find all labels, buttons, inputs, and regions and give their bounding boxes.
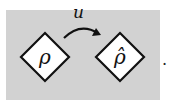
arrowhead-icon xyxy=(92,28,101,36)
arrow-u-icon xyxy=(64,29,98,38)
node-label-source: ρ xyxy=(39,45,51,69)
edge-label-u: u xyxy=(73,2,84,22)
diagram-canvas xyxy=(0,0,180,106)
trailing-period: . xyxy=(162,50,167,69)
node-label-target: ρ̂ xyxy=(114,45,126,69)
